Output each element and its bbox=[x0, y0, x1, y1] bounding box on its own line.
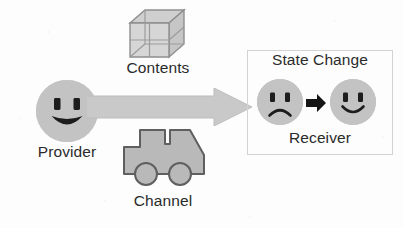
receiver-label: Receiver bbox=[250, 129, 390, 147]
channel-truck-icon bbox=[118, 127, 208, 191]
receiver-happy-face-icon bbox=[330, 79, 376, 125]
receiver-sad-face-icon bbox=[257, 79, 303, 125]
diagram-canvas: Provider Contents Channe bbox=[0, 0, 403, 228]
state-change-label: State Change bbox=[250, 51, 390, 69]
contents-label: Contents bbox=[112, 59, 204, 77]
channel-label: Channel bbox=[110, 192, 216, 210]
provider-label: Provider bbox=[6, 143, 128, 161]
contents-cube-icon bbox=[128, 8, 186, 60]
flow-arrow-right-icon bbox=[86, 88, 252, 126]
state-transition-arrow-icon bbox=[306, 94, 326, 112]
